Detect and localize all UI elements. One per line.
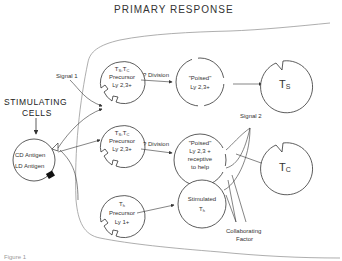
precursor-1-marker: Ly 2,3+ [106, 82, 138, 89]
stimulated-th-label: Th [192, 206, 212, 214]
stimulating-cells-label-2: CELLS [22, 109, 52, 118]
poised-1-label: "Poised" [184, 75, 216, 82]
poised-2-label: "Poised" [182, 140, 218, 147]
precursor-1-type: Precursor [106, 74, 138, 81]
figure-caption: Figure 1 [4, 254, 26, 260]
cd-antigen-label: CD Antigen [15, 152, 45, 158]
stimulating-cell [13, 139, 58, 181]
diagram-title: PRIMARY RESPONSE [114, 5, 234, 15]
poised-1-marker: Ly 2,3+ [184, 84, 216, 91]
precursor-th-label: Th [112, 201, 132, 209]
poised-2-help: to help [182, 164, 218, 171]
stimulated-label: Stimulated [182, 196, 222, 203]
ld-antigen-label: LD Antigen [15, 163, 44, 169]
stimulating-cells-label-1: STIMULATING [4, 98, 67, 107]
precursor-th-type: Precursor [106, 210, 138, 217]
precursor-2-label: TS,TC [108, 130, 136, 138]
signal-1-label: Signal 1 [56, 73, 78, 79]
effector-tc-label: TC [279, 162, 291, 173]
stimulated-th-cell [178, 180, 226, 228]
division-label-2: ? Division [143, 141, 169, 147]
poised-2-receptive: receptive [182, 156, 218, 163]
collaborating-factor-label-2: Factor [236, 236, 253, 242]
signal-2-label: Signal 2 [240, 113, 262, 119]
precursor-2-type: Precursor [106, 138, 138, 145]
effector-ts-label: TS [279, 79, 290, 90]
poised-2-marker: Ly 2,3 + [182, 148, 218, 155]
collaborating-factor-label-1: Collaborating [226, 228, 261, 234]
division-label-1: ? Division [143, 72, 169, 78]
precursor-1-label: TS,TC [108, 66, 136, 74]
precursor-th-marker: Ly 1+ [106, 219, 138, 226]
precursor-2-marker: Ly 2,3+ [106, 146, 138, 153]
diagram-canvas [0, 0, 342, 261]
